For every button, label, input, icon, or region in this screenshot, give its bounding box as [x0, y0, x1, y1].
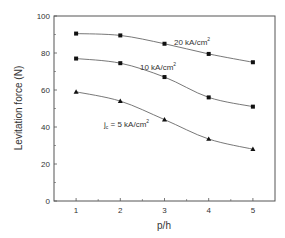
x-tick-label: 4 — [206, 206, 211, 215]
y-tick-label: 80 — [41, 49, 50, 58]
square-marker — [207, 52, 211, 56]
series-3 — [74, 89, 256, 151]
square-marker — [163, 75, 167, 79]
series-layer — [74, 32, 256, 151]
square-marker — [74, 57, 78, 61]
annotation-20-kA: 20 kA/cm2 — [174, 36, 210, 47]
x-tick-label: 5 — [251, 206, 256, 215]
x-tick-label: 3 — [162, 206, 167, 215]
square-marker — [163, 42, 167, 46]
triangle-marker — [74, 89, 79, 93]
series-1 — [74, 32, 255, 65]
levitation-force-chart: 020406080100 12345 Levitation force (N) … — [0, 0, 285, 238]
annotation-5-kA: jc = 5 kA/cm2 — [103, 118, 149, 130]
square-marker — [118, 33, 122, 37]
x-tick-label: 1 — [74, 206, 79, 215]
y-tick-label: 60 — [41, 86, 50, 95]
y-tick-label: 20 — [41, 160, 50, 169]
x-axis-label: p/h — [157, 220, 171, 231]
square-marker — [251, 105, 255, 109]
square-marker — [251, 60, 255, 64]
x-tick-label: 2 — [118, 206, 123, 215]
y-axis-label: Levitation force (N) — [13, 66, 24, 150]
series-line — [76, 34, 253, 63]
square-marker — [207, 95, 211, 99]
square-marker — [118, 61, 122, 65]
y-tick-label: 40 — [41, 123, 50, 132]
y-tick-label: 0 — [46, 197, 51, 206]
y-tick-label: 100 — [37, 12, 51, 21]
annotation-10-kA: 10 kA/cm2 — [140, 61, 176, 72]
square-marker — [74, 32, 78, 36]
